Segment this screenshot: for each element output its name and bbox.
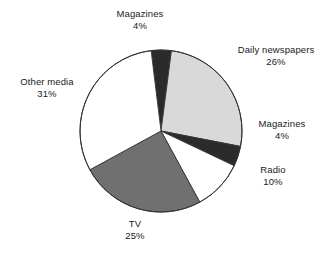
- pie-label-daily-newspapers: Daily newspapers 26%: [227, 44, 325, 68]
- pie-label-other-media-value: 31%: [6, 88, 88, 100]
- pie-label-tv-name: TV: [113, 218, 157, 230]
- pie-label-radio-value: 10%: [243, 176, 303, 188]
- pie-label-magazines-right-name: Magazines: [243, 118, 321, 130]
- pie-label-daily-newspapers-value: 26%: [227, 56, 325, 68]
- pie-label-magazines-top-value: 4%: [101, 20, 179, 32]
- pie-label-tv-value: 25%: [113, 230, 157, 242]
- pie-label-tv: TV 25%: [113, 218, 157, 242]
- pie-label-other-media-name: Other media: [6, 76, 88, 88]
- pie-label-radio: Radio 10%: [243, 164, 303, 188]
- pie-label-magazines-top: Magazines 4%: [101, 8, 179, 32]
- pie-label-radio-name: Radio: [243, 164, 303, 176]
- pie-label-magazines-right: Magazines 4%: [243, 118, 321, 142]
- pie-chart-figure: Magazines 4% Daily newspapers 26% Magazi…: [0, 0, 326, 256]
- pie-label-other-media: Other media 31%: [6, 76, 88, 100]
- pie-label-daily-newspapers-name: Daily newspapers: [227, 44, 325, 56]
- pie-label-magazines-top-name: Magazines: [101, 8, 179, 20]
- pie-slice-group: [80, 50, 242, 212]
- pie-label-magazines-right-value: 4%: [243, 130, 321, 142]
